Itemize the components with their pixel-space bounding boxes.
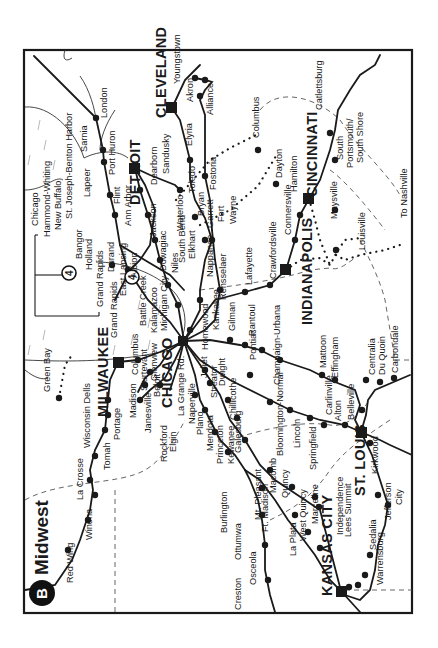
city-label: Dowagiac	[158, 230, 168, 271]
city-label: Bloomington-Normal	[275, 372, 285, 456]
hub-city-label: MILWAUKEE	[95, 326, 111, 417]
city-label: Akron	[185, 78, 195, 102]
city-label: South	[335, 136, 345, 160]
map-title: Midwest	[31, 499, 52, 575]
city-label: Sturtevant	[139, 349, 149, 391]
city-label: Beloit	[152, 374, 162, 397]
hub-city-label: KANSAS CITY	[319, 494, 335, 596]
city-label: La Grange Rd.	[176, 356, 186, 416]
city-label: Du Quoin	[377, 336, 387, 375]
city-label: Macomb	[268, 458, 278, 493]
city-label: Madison	[128, 383, 138, 418]
city-label: Springfield	[308, 427, 318, 470]
city-label: South Shore	[355, 112, 365, 163]
city-label: Joliet	[199, 356, 209, 378]
city-label: Mendota	[205, 414, 215, 451]
city-label: Fostoria	[208, 156, 218, 190]
city-label: Youngstown	[172, 34, 182, 84]
city-label: Homewood	[200, 304, 210, 350]
city-label: Centralia	[367, 337, 377, 375]
city-label: Red Wing	[65, 543, 75, 583]
city-label: Osceola	[248, 550, 258, 585]
city-label: Alliance	[205, 83, 215, 115]
city-label: To Nashville	[399, 168, 409, 218]
city-label: Connersville	[283, 184, 293, 235]
city-label: Battle Creek	[138, 275, 148, 326]
city-label: London	[99, 87, 109, 118]
city-label: Dwight	[217, 357, 227, 386]
city-label: Dearborn	[149, 147, 159, 185]
city-label: Crawfordsville	[268, 221, 278, 279]
city-label: La Plata	[288, 521, 298, 556]
city-label: Lapeer	[82, 168, 92, 197]
city-label: Durand	[106, 242, 116, 272]
city-label: Port Huron	[107, 131, 117, 175]
city-label: Quincy	[280, 469, 290, 498]
city-label: Green Bay	[42, 348, 52, 392]
city-label: Lincoln	[292, 419, 302, 448]
city-label: Belleville	[346, 384, 356, 420]
city-label: Catlettsburg	[314, 60, 324, 110]
city-label: Wisconsin Dells	[82, 383, 92, 448]
city-label: Lees Summit	[343, 483, 353, 537]
city-label: Kalamazoo	[149, 287, 159, 333]
city-label: Tomah	[102, 442, 112, 470]
city-labels: LondonSarniaPort HuronLapeerFlintSt. Jos…	[30, 34, 409, 610]
city-label: Jefferson	[383, 482, 393, 520]
city-label: Galesburg	[233, 411, 243, 453]
city-label: Nappanee	[205, 235, 215, 277]
city-label: Warrensburg	[375, 532, 385, 585]
city-label: Bangor	[74, 229, 84, 259]
city-label: Louisville	[357, 212, 367, 250]
city-label: Carbondale	[390, 325, 400, 373]
city-label: Albion	[129, 252, 139, 278]
city-label: Fort	[216, 205, 226, 222]
city-label: City	[394, 489, 404, 505]
city-label: West Quincy	[298, 489, 308, 541]
city-label: Mattoon	[318, 335, 328, 368]
city-label: Holland	[84, 239, 94, 270]
city-label: Kankakee	[211, 289, 221, 330]
city-label: Ottumwa	[233, 522, 243, 560]
city-label: Waterloo	[175, 195, 185, 231]
hub-city-label: INDIANAPOLIS	[299, 217, 315, 325]
city-label: Plano	[195, 412, 205, 436]
city-label: Portsmouth/	[345, 118, 355, 168]
city-label: Elgin	[168, 432, 178, 452]
city-label: Ann Arbor	[123, 185, 133, 226]
city-label: Creston	[233, 578, 243, 610]
city-label: Toledo	[187, 166, 197, 193]
city-label: Flint	[112, 186, 122, 204]
city-label: Dayton	[274, 149, 284, 178]
city-label: Alton	[333, 400, 343, 421]
city-label: La Crosse	[75, 458, 85, 500]
city-label: Michigan City	[159, 275, 169, 331]
city-label: Gilman	[227, 302, 237, 331]
city-label: East Lansing	[118, 243, 128, 296]
route-number-text: 4	[64, 270, 75, 276]
city-label: Elyria	[184, 122, 194, 146]
city-label: Sarnia	[79, 125, 89, 152]
city-label: Chicago	[30, 192, 40, 226]
city-label: Maysville	[329, 181, 339, 219]
city-label: Elkhart	[187, 230, 197, 259]
city-label: Burlington	[219, 492, 229, 533]
city-label: Hammond-Whiting	[42, 161, 52, 237]
section-badge-letter: B	[33, 588, 50, 599]
map-title-group: B Midwest	[29, 499, 55, 606]
city-label: Princeton	[215, 425, 225, 464]
city-label: Pontiac	[248, 329, 258, 360]
city-label: Sandusky	[161, 133, 171, 174]
city-label: Columbus	[251, 96, 261, 138]
city-label: Portage	[112, 408, 122, 440]
city-label: Lafayette	[244, 247, 254, 285]
hub-city-label: CINCINNATI	[304, 111, 320, 197]
city-label: Garrett	[205, 199, 215, 228]
hub-city-label: ST. LOUIS	[352, 424, 368, 496]
city-label: Effingham	[330, 336, 340, 378]
city-label: St. Joseph-Benton Harbor	[64, 113, 74, 219]
city-label: Winona	[84, 508, 94, 540]
city-label: Janesville	[143, 393, 153, 433]
city-label: New Buffalo	[53, 181, 63, 230]
midwest-rail-map: 44 CLEVELANDDETROITCINCINNATIINDIANAPOLI…	[0, 0, 438, 648]
